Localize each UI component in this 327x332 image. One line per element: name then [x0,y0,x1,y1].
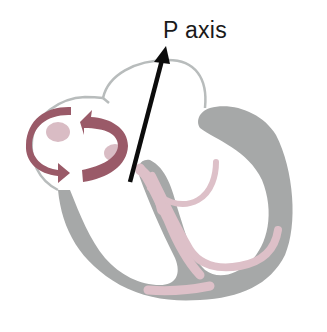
heart-diagram: P axis [0,0,327,332]
p-axis-label: P axis [163,17,227,44]
rotation-arrow-right-icon [80,110,128,182]
heart-illustration [0,0,327,332]
